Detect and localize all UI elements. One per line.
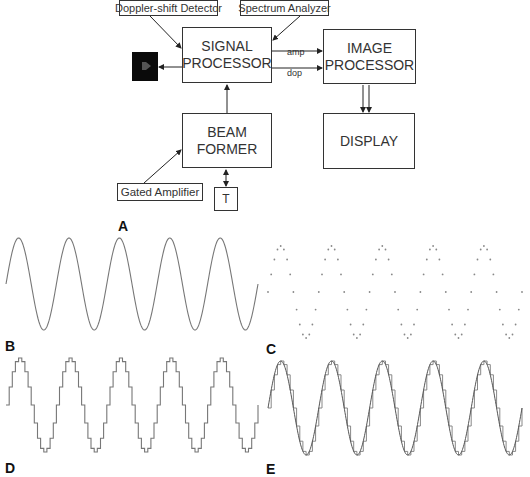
sample-dot — [397, 309, 399, 311]
sample-dot — [461, 334, 463, 336]
sample-dot — [283, 249, 285, 251]
sample-dot — [407, 337, 409, 339]
sample-dot — [480, 249, 482, 251]
sample-dot — [305, 337, 307, 339]
sample-dot — [381, 245, 383, 247]
sample-dot — [277, 249, 279, 251]
sample-dot — [429, 249, 431, 251]
sample-dot — [267, 291, 269, 293]
sample-dot — [391, 274, 393, 276]
sample-dot — [318, 291, 320, 293]
panel-label-c: C — [266, 341, 276, 357]
sample-dot — [388, 259, 390, 261]
sample-dot — [420, 291, 422, 293]
sample-dot — [493, 274, 495, 276]
sample-dot — [321, 274, 323, 276]
sample-dot — [315, 309, 317, 311]
sample-dot — [489, 259, 491, 261]
sample-dot — [337, 259, 339, 261]
sample-dot — [270, 274, 272, 276]
continuous-sine-wave — [6, 238, 258, 330]
sample-dot — [515, 324, 517, 326]
sample-dot — [413, 324, 415, 326]
sample-dot — [474, 274, 476, 276]
panel-label-e: E — [266, 461, 275, 477]
sample-dot — [416, 309, 418, 311]
sample-dot — [353, 334, 355, 336]
smooth-sine-overlay — [268, 361, 522, 455]
panel-label-a: A — [118, 218, 128, 234]
sample-dot — [293, 291, 295, 293]
sample-dot — [274, 259, 276, 261]
sample-dot — [372, 274, 374, 276]
sample-dot — [343, 291, 345, 293]
sample-dot — [508, 337, 510, 339]
sample-dot — [331, 245, 333, 247]
sample-dot — [296, 309, 298, 311]
sample-dot — [327, 249, 329, 251]
sample-dot — [502, 324, 504, 326]
sample-dot — [404, 334, 406, 336]
sample-dot — [483, 245, 485, 247]
sample-dot — [359, 334, 361, 336]
sample-dot — [401, 324, 403, 326]
sample-dot — [340, 274, 342, 276]
sample-dot — [299, 324, 301, 326]
sample-dot — [280, 245, 282, 247]
sample-dot — [445, 291, 447, 293]
panel-label-d: D — [5, 460, 15, 476]
sample-dot — [347, 309, 349, 311]
sample-dot — [512, 334, 514, 336]
sample-dot — [448, 309, 450, 311]
sample-dot — [439, 259, 441, 261]
sample-dot — [426, 259, 428, 261]
sample-dot — [324, 259, 326, 261]
waveform-panels — [0, 0, 530, 477]
sample-dot — [350, 324, 352, 326]
sample-dot — [458, 337, 460, 339]
sample-dot — [289, 274, 291, 276]
sample-dot — [334, 249, 336, 251]
sample-dot — [378, 249, 380, 251]
sample-dot — [286, 259, 288, 261]
sample-dot — [308, 334, 310, 336]
sample-dot — [312, 324, 314, 326]
sample-dot — [410, 334, 412, 336]
sample-dot — [451, 324, 453, 326]
sample-dot — [442, 274, 444, 276]
sample-dot — [477, 259, 479, 261]
sample-dot — [356, 337, 358, 339]
sample-dot — [486, 249, 488, 251]
sample-dot — [362, 324, 364, 326]
sample-dot — [375, 259, 377, 261]
sample-dot — [499, 309, 501, 311]
sample-dot — [454, 334, 456, 336]
sample-dot — [496, 291, 498, 293]
sample-dot — [464, 324, 466, 326]
sample-dot — [505, 334, 507, 336]
sample-dot — [423, 274, 425, 276]
sample-dot — [369, 291, 371, 293]
sample-dot — [467, 309, 469, 311]
sample-dot — [521, 291, 523, 293]
sample-dot — [385, 249, 387, 251]
sampled-dots-wave — [267, 245, 523, 339]
panel-label-b: B — [5, 338, 15, 354]
sample-dot — [394, 291, 396, 293]
sample-dot — [470, 291, 472, 293]
sample-dot — [432, 245, 434, 247]
sample-dot — [366, 309, 368, 311]
sample-dot — [435, 249, 437, 251]
staircase-wave — [6, 358, 258, 452]
sample-dot — [302, 334, 304, 336]
sample-dot — [518, 309, 520, 311]
